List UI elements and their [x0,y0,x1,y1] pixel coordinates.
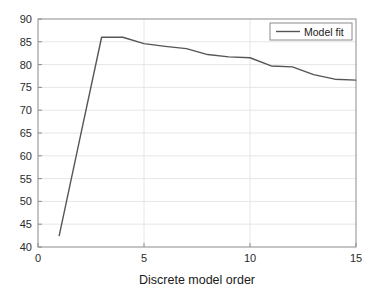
y-tick-label: 40 [20,241,32,253]
line-chart: 4045505560657075808590 051015 Discrete m… [0,0,374,294]
x-axis-title: Discrete model order [139,273,255,287]
y-tick-label: 70 [20,104,32,116]
y-tick-label: 90 [20,13,32,25]
chart-figure: 4045505560657075808590 051015 Discrete m… [0,0,374,294]
x-tick-label: 10 [244,252,256,264]
legend-item-model-fit: Model fit [304,26,344,38]
y-tick-label: 80 [20,59,32,71]
legend[interactable]: Model fit [270,23,352,40]
x-tick-label: 15 [350,252,362,264]
y-tick-label: 50 [20,195,32,207]
y-tick-label: 75 [20,81,32,93]
y-tick-label: 60 [20,150,32,162]
y-tick-label: 55 [20,173,32,185]
y-tick-label: 85 [20,36,32,48]
x-tick-label: 5 [141,252,147,264]
y-tick-label: 45 [20,218,32,230]
x-tick-label: 0 [35,252,41,264]
y-tick-label: 65 [20,127,32,139]
